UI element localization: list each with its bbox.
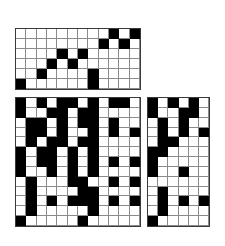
matrix-cell [109, 187, 119, 197]
matrix-cell [26, 128, 36, 138]
matrix-cell [26, 137, 36, 147]
matrix-cell [99, 206, 109, 216]
matrix-cell [99, 157, 109, 167]
matrix-cell [37, 108, 47, 118]
matrix-cell [148, 118, 158, 128]
matrix-cell [109, 49, 119, 59]
matrix-cell [47, 98, 57, 108]
matrix-cell [37, 196, 47, 206]
matrix-cell [168, 137, 178, 147]
matrix-cell [37, 128, 47, 138]
matrix-cell [199, 98, 209, 108]
matrix-cell [199, 167, 209, 177]
matrix-cell [57, 206, 67, 216]
matrix-cell [16, 147, 26, 157]
matrix-cell [68, 196, 78, 206]
matrix-cell [88, 49, 98, 59]
matrix-cell [68, 206, 78, 216]
matrix-cell [16, 177, 26, 187]
matrix-cell [16, 98, 26, 108]
matrix-cell [109, 177, 119, 187]
matrix-cell [119, 39, 129, 49]
matrix-cell [57, 196, 67, 206]
matrix-cell [148, 137, 158, 147]
matrix-cell [109, 206, 119, 216]
matrix-cell [130, 137, 140, 147]
matrix-cell [130, 98, 140, 108]
matrix-cell [179, 167, 189, 177]
matrix-cell [148, 177, 158, 187]
matrix-cell [99, 216, 109, 226]
matrix-cell [179, 157, 189, 167]
matrix-cell [109, 157, 119, 167]
matrix-cell [37, 167, 47, 177]
matrix-cell [119, 49, 129, 59]
matrix-cell [57, 147, 67, 157]
matrix-cell [179, 187, 189, 197]
matrix-cell [130, 118, 140, 128]
matrix-cell [57, 167, 67, 177]
matrix-cell [199, 128, 209, 138]
matrix-cell [26, 177, 36, 187]
matrix-cell [57, 187, 67, 197]
matrix-cell [148, 216, 158, 226]
matrix-cell [68, 69, 78, 79]
matrix-cell [78, 79, 88, 89]
matrix-cell [16, 79, 26, 89]
matrix-cell [189, 187, 199, 197]
matrix-cell [16, 216, 26, 226]
matrix-cell [47, 137, 57, 147]
matrix-cell [199, 177, 209, 187]
matrix-cell [179, 118, 189, 128]
matrix-cell [168, 98, 178, 108]
matrix-cell [168, 128, 178, 138]
matrix-cell [130, 187, 140, 197]
matrix-cell [68, 118, 78, 128]
matrix-cell [109, 147, 119, 157]
matrix-cell [199, 216, 209, 226]
matrix-cell [119, 118, 129, 128]
matrix-cell [57, 177, 67, 187]
matrix-cell [47, 49, 57, 59]
matrix-cell [109, 79, 119, 89]
matrix-cell [109, 69, 119, 79]
matrix-cell [88, 29, 98, 39]
matrix-cell [88, 137, 98, 147]
matrix-cell [37, 29, 47, 39]
matrix-cell [168, 108, 178, 118]
matrix-cell [78, 39, 88, 49]
matrix-cell [130, 49, 140, 59]
matrix-cell [130, 167, 140, 177]
matrix-cell [189, 177, 199, 187]
matrix-cell [68, 216, 78, 226]
matrix-cell [119, 29, 129, 39]
matrix-cell [158, 128, 168, 138]
matrix-cell [57, 49, 67, 59]
matrix-cell [179, 196, 189, 206]
matrix-cell [130, 59, 140, 69]
matrix-cell [88, 59, 98, 69]
matrix-cell [16, 39, 26, 49]
matrix-cell [88, 157, 98, 167]
matrix-cell [37, 49, 47, 59]
matrix-cell [47, 29, 57, 39]
matrix-cell [78, 118, 88, 128]
matrix-cell [78, 128, 88, 138]
matrix-cell [88, 79, 98, 89]
matrix-cell [158, 206, 168, 216]
matrix-cell [158, 98, 168, 108]
matrix-cell [47, 206, 57, 216]
matrix-cell [78, 98, 88, 108]
matrix-cell [57, 69, 67, 79]
matrix-cell [68, 49, 78, 59]
matrix-cell [78, 177, 88, 187]
matrix-cell [189, 216, 199, 226]
matrix-cell [88, 216, 98, 226]
matrix-cell [199, 147, 209, 157]
matrix-cell [37, 187, 47, 197]
matrix-cell [88, 118, 98, 128]
matrix-cell [199, 187, 209, 197]
matrix-cell [148, 128, 158, 138]
matrix-cell [130, 157, 140, 167]
matrix-cell [109, 98, 119, 108]
